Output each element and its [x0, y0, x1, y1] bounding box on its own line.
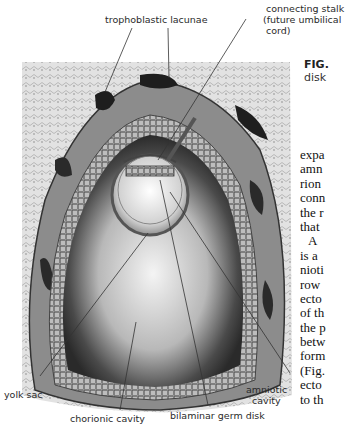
text-line: the p — [300, 321, 347, 335]
text-line: that — [300, 220, 347, 234]
body-text-column: expa amn rion conn the r that A is a nio… — [300, 148, 347, 407]
text-line: the r — [300, 206, 347, 220]
label-connecting-stalk: connecting stalk — [266, 3, 344, 14]
label-connecting-stalk-note: (future umbilical — [263, 14, 341, 25]
text-line: expa — [300, 148, 347, 162]
embryo-illustration: trophoblastic lacunae connecting stalk (… — [0, 0, 295, 435]
text-line: ecto — [300, 292, 347, 306]
figure-number: FIG. — [304, 58, 329, 71]
textbook-page: trophoblastic lacunae connecting stalk (… — [0, 0, 347, 435]
text-line: is a — [300, 249, 347, 263]
text-line: to th — [300, 393, 347, 407]
text-line: (Fig. — [300, 364, 347, 378]
text-line: A — [300, 234, 347, 248]
text-line: conn — [300, 191, 347, 205]
text-line: of th — [300, 306, 347, 320]
label-amniotic-cavity: amniotic — [246, 384, 287, 395]
label-amniotic-cavity-end: cavity — [252, 395, 281, 406]
text-line: row — [300, 278, 347, 292]
text-line: ecto — [300, 378, 347, 392]
label-yolk-sac: yolk sac — [4, 389, 43, 400]
figure-caption: FIG. disk — [304, 58, 329, 84]
implanted-blastocyst-drawing — [0, 0, 295, 435]
text-line: betw — [300, 335, 347, 349]
text-line: rion — [300, 177, 347, 191]
label-bilaminar-germ-disk: bilaminar germ disk — [170, 410, 265, 421]
label-trophoblastic-lacunae: trophoblastic lacunae — [105, 14, 208, 25]
text-line: nioti — [300, 263, 347, 277]
text-line: amn — [300, 162, 347, 176]
label-chorionic-cavity: chorionic cavity — [70, 413, 145, 424]
text-line: form — [300, 349, 347, 363]
label-connecting-stalk-note-end: cord) — [266, 25, 291, 36]
caption-text: disk — [304, 71, 329, 84]
